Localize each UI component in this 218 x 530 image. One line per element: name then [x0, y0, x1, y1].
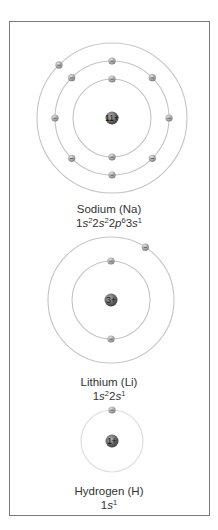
electron-icon: [165, 114, 172, 121]
electron-icon: [108, 57, 115, 64]
hydrogen-electron-config: 1s1: [0, 499, 218, 512]
atom-sodium: 11+: [37, 43, 187, 193]
sodium-label: Sodium (Na): [0, 203, 218, 216]
electron-icon: [142, 244, 149, 251]
electron-icon: [149, 74, 156, 81]
electron-icon: [51, 114, 58, 121]
nucleus: 11+: [105, 112, 119, 125]
bohr-models: 11+3+1+: [0, 0, 218, 530]
atom-hydrogen: 1+: [81, 406, 143, 472]
lithium-label: Lithium (Li): [0, 376, 218, 389]
hydrogen-label: Hydrogen (H): [0, 485, 218, 498]
sodium-electron-config: 1s22s22p63s1: [0, 217, 218, 230]
electron-icon: [108, 406, 115, 413]
nucleus-charge-label: 11+: [105, 113, 119, 123]
nucleus: 3+: [105, 294, 118, 307]
electron-icon: [68, 74, 75, 81]
lithium-electron-config: 1s22s1: [0, 390, 218, 403]
electron-icon: [108, 153, 115, 160]
electron-icon: [55, 61, 62, 68]
nucleus-charge-label: 3+: [106, 295, 116, 305]
nucleus: 1+: [106, 435, 119, 448]
electron-icon: [149, 155, 156, 162]
atom-lithium: 3+: [48, 237, 174, 363]
electron-icon: [108, 75, 115, 82]
electron-icon: [108, 171, 115, 178]
electron-icon: [107, 257, 114, 264]
nucleus-charge-label: 1+: [107, 436, 117, 446]
electron-icon: [107, 335, 114, 342]
electron-icon: [68, 155, 75, 162]
